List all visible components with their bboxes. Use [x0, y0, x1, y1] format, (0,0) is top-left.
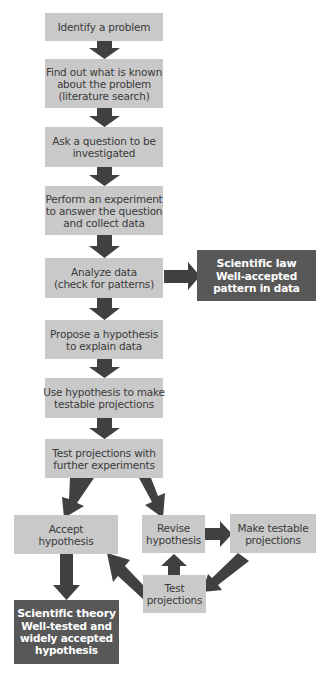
arrow-test-further-to-accept [62, 478, 94, 518]
result-text: pattern in data [213, 282, 300, 294]
result-scientific-theory: Scientific theory Well-tested and widely… [14, 600, 119, 664]
step-text: and collect data [63, 217, 144, 229]
arrow-test-to-revise [161, 554, 187, 575]
result-scientific-law: Scientific law Well-accepted pattern in … [197, 250, 316, 301]
step-make-testable-projections: Make testable projections [230, 514, 316, 553]
step-literature-search: Find out what is known about the problem… [45, 59, 163, 108]
step-text: investigated [73, 147, 136, 159]
arrow-question-to-experiment [89, 167, 120, 186]
result-text: widely accepted [20, 632, 113, 644]
arrow-test-to-accept [107, 553, 143, 599]
arrow-revise-to-make-testable [205, 521, 232, 547]
step-test-further: Test projections with further experiment… [45, 439, 163, 478]
step-revise-hypothesis: Revise hypothesis [142, 515, 205, 553]
step-text: Test projections with [52, 447, 155, 459]
step-text: (literature search) [58, 90, 149, 102]
step-text: projections [147, 594, 203, 606]
step-text: further experiments [53, 459, 155, 471]
step-text: Test [165, 582, 185, 594]
step-text: Revise [157, 522, 190, 534]
step-text: hypothesis [146, 534, 201, 546]
step-make-projections: Use hypothesis to make testable projecti… [45, 378, 163, 418]
arrow-research-to-question [89, 108, 120, 127]
step-text: Find out what is known [46, 66, 162, 78]
arrow-analyze-to-law [164, 262, 200, 290]
step-propose-hypothesis: Propose a hypothesis to explain data [45, 320, 163, 359]
step-text: to answer the question [46, 205, 163, 217]
result-text: Well-tested and [21, 620, 112, 632]
step-text: about the problem [57, 78, 151, 90]
arrow-propose-to-projections [89, 359, 120, 378]
step-accept-hypothesis: Accept hypothesis [14, 515, 118, 554]
step-text: hypothesis [38, 535, 93, 547]
arrow-experiment-to-analyze [89, 235, 120, 258]
step-identify-problem: Identify a problem [45, 13, 163, 41]
step-text: testable projections [54, 398, 154, 410]
step-text: Use hypothesis to make [43, 386, 165, 398]
step-text: Analyze data [71, 266, 137, 278]
step-ask-question: Ask a question to be investigated [45, 127, 163, 167]
step-text: Ask a question to be [52, 135, 156, 147]
step-perform-experiment: Perform an experiment to answer the ques… [45, 186, 163, 235]
step-text: projections [245, 534, 301, 546]
arrow-make-testable-to-test [202, 553, 249, 592]
step-text: (check for patterns) [54, 278, 154, 290]
step-text: Propose a hypothesis [50, 328, 158, 340]
arrow-identify-to-research [89, 41, 120, 59]
result-title: Scientific law [217, 258, 297, 270]
result-title: Scientific theory [17, 608, 116, 620]
step-text: to explain data [66, 340, 142, 352]
arrow-test-further-to-revise [139, 478, 165, 518]
step-text: Make testable [237, 522, 308, 534]
result-text: Well-accepted [216, 270, 297, 282]
arrow-projections-to-test-further [89, 418, 120, 439]
result-text: hypothesis [35, 644, 98, 656]
step-text: Identify a problem [58, 21, 151, 33]
arrow-analyze-to-propose [89, 298, 120, 320]
arrow-accept-to-theory [53, 554, 80, 600]
step-text: Perform an experiment [45, 193, 162, 205]
step-test-projections: Test projections [143, 575, 206, 613]
step-analyze-data: Analyze data (check for patterns) [45, 258, 163, 298]
step-text: Accept [49, 523, 84, 535]
